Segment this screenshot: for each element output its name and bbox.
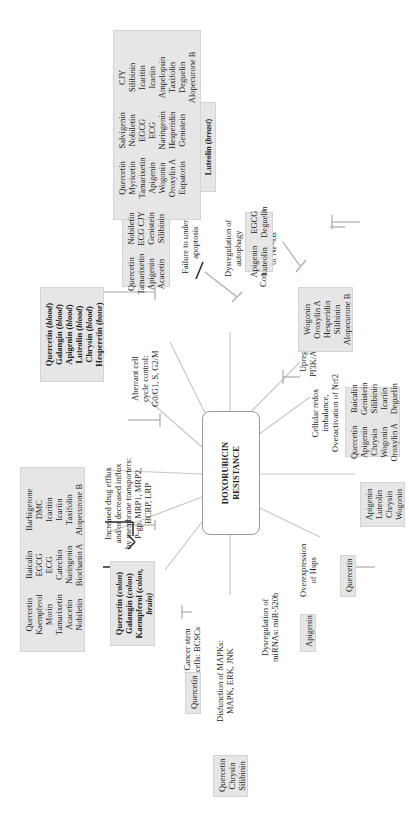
label-line: Cancer stem	[182, 627, 192, 672]
inhibitors-apoptosis-box: QuercetinMyricetinTamarixetinApigeninWog…	[113, 30, 201, 220]
label-line: Dysregulation of	[260, 593, 270, 662]
label-line: Increased drug efflux	[103, 458, 113, 549]
label-line: Overexpression	[298, 544, 308, 597]
label-line: cycle control:	[140, 350, 150, 407]
label-line: of Hsps	[308, 544, 318, 597]
label-line: imbalance,	[320, 374, 330, 452]
inhibitors-mapk-box: QuercetinChrysinSilibinin	[213, 755, 248, 797]
label-line: by membrane transporters:	[123, 458, 133, 549]
mechanism-mirna: Dysregulation of miRNAs: miR-520b	[260, 593, 280, 662]
label-line: Failure to undergo	[180, 211, 190, 274]
inhibitors-csc-box: Quercetin	[185, 672, 201, 714]
center-title-line2: RESISTANCE	[231, 446, 242, 500]
inhibitors-pi3k-box: QuercetinApigeninChrysinWogoninOroxylin …	[345, 387, 400, 457]
diagram-canvas: DOXORUBICIN RESISTANCE Failure to underg…	[0, 0, 409, 832]
label-line: Cellular redox	[310, 374, 320, 452]
inhibitors-nfkb-box: WogoninOroxylin AHesperidinSilibininAlop…	[298, 287, 353, 352]
promoter-cellcycle-box: Quercetin (blood) Galangin (blood) Apige…	[40, 287, 104, 382]
label-line: P-gp, MRP1, MRP2,	[133, 458, 143, 549]
mechanism-apoptosis: Failure to undergo apoptosis	[180, 211, 200, 274]
mechanism-efflux: Increased drug efflux and/or decreased i…	[103, 458, 153, 549]
label-line: MAPK, ERK, JNK	[225, 640, 235, 722]
mechanism-csc: Cancer stem cells: BCSCs	[182, 627, 202, 672]
inhibitors-efflux-box: QuercetinKaempferolMorinTamarixetinAcace…	[20, 467, 85, 652]
label-line: apoptosis	[190, 211, 200, 274]
inhibitors-cellcycle-box: QuercetinTamarixetinApigeninAcacetin Nob…	[122, 219, 170, 287]
doxorubicin-resistance-node: DOXORUBICIN RESISTANCE	[202, 411, 260, 535]
label-line: Disfunction of MAPKs:	[215, 640, 225, 722]
label-line: BCRP, LRP	[143, 458, 153, 549]
promoter-apoptosis-box: Luteolin (breast)	[200, 102, 216, 192]
mechanism-mapk: Disfunction of MAPKs: MAPK, ERK, JNK	[215, 640, 235, 722]
inhibitors-hsps-box: Quercetin	[340, 555, 356, 597]
mechanism-nrf2: Cellular redox imbalance, Overactivation…	[310, 374, 340, 452]
center-title-line1: DOXORUBICIN	[220, 442, 231, 504]
inhibitors-nrf2-box: ApigeninLuteolinChrysinWogonin	[360, 482, 405, 527]
mechanism-autophagy: Dysregulation of autophagy	[223, 220, 243, 277]
inhibitors-autophagy-box: ApigeninLuteolin EGCGDeguelin	[245, 212, 273, 272]
label-line: and/or decreased influx	[113, 458, 123, 549]
label-line: Aberrant cell	[130, 350, 140, 407]
label-line: Overactivation of Nrf2	[330, 374, 340, 452]
label-line: Dysregulation of	[223, 220, 233, 277]
label-line: autophagy	[233, 220, 243, 277]
label-line: G0/G1, S, G2/M	[150, 350, 160, 407]
promoter-efflux-box: Quercetin (colon) Galangin (colon) Kaemp…	[110, 561, 155, 646]
mechanism-cellcycle: Aberrant cell cycle control: G0/G1, S, G…	[130, 350, 160, 407]
label-line: cells: BCSCs	[192, 627, 202, 672]
mechanism-hsps: Overexpression of Hsps	[298, 544, 318, 597]
inhibitors-mirna-box: Apigenin	[300, 614, 316, 652]
label-line: miRNAs: miR-520b	[270, 593, 280, 662]
